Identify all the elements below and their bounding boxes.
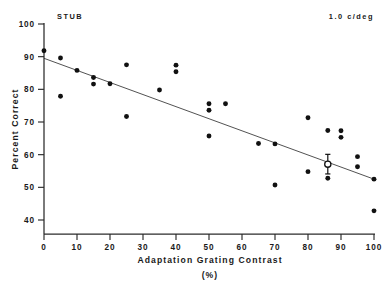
x-tick-label-40: 40 (171, 243, 182, 252)
data-point (339, 128, 344, 133)
data-point (207, 101, 212, 106)
x-tick-label-90: 90 (336, 243, 347, 252)
data-point (355, 154, 360, 159)
data-point (372, 208, 377, 213)
data-point (256, 141, 261, 146)
data-point (207, 134, 212, 139)
data-point (91, 75, 96, 80)
data-point (223, 101, 228, 106)
x-tick-label-30: 30 (138, 243, 149, 252)
data-points (42, 48, 377, 213)
x-axis-units-label: (%) (202, 270, 219, 280)
y-axis-ticks: 405060708090100 (19, 20, 44, 225)
x-tick-label-20: 20 (105, 243, 116, 252)
y-tick-label-60: 60 (24, 151, 35, 160)
x-axis-title: Adaptation Grating Contrast (137, 255, 282, 265)
data-point (273, 183, 278, 188)
y-tick-label-100: 100 (19, 20, 35, 29)
spatial-frequency-annotation: 1.0 c/deg (329, 12, 374, 21)
y-tick-label-80: 80 (24, 85, 35, 94)
data-point (157, 88, 162, 93)
mean-marker-group (325, 154, 331, 174)
y-tick-label-40: 40 (24, 216, 35, 225)
data-point (174, 69, 179, 74)
data-point (124, 114, 129, 119)
y-tick-label-50: 50 (24, 183, 35, 192)
x-tick-label-60: 60 (237, 243, 248, 252)
data-point (306, 169, 311, 174)
data-point (58, 56, 63, 61)
data-point (306, 115, 311, 120)
data-point (42, 48, 47, 53)
data-point (325, 128, 330, 133)
x-tick-label-0: 0 (41, 243, 46, 252)
axes-frame (44, 23, 375, 234)
data-point (124, 62, 129, 67)
x-axis-ticks: 0102030405060708090100 (41, 234, 382, 252)
x-tick-label-70: 70 (270, 243, 281, 252)
y-axis-title: Percent Correct (10, 89, 20, 170)
data-point (207, 108, 212, 113)
data-point (355, 164, 360, 169)
data-point (339, 135, 344, 140)
data-point (174, 63, 179, 68)
data-point (108, 81, 113, 86)
data-point (75, 68, 80, 73)
data-point (325, 176, 330, 181)
x-tick-label-80: 80 (303, 243, 314, 252)
mean-data-point (325, 161, 331, 167)
subject-annotation: STUB (57, 12, 83, 21)
plot-annotations: STUB 1.0 c/deg (57, 12, 374, 21)
y-tick-label-70: 70 (24, 118, 35, 127)
data-point (58, 94, 63, 99)
data-point (273, 141, 278, 146)
scatter-plot: STUB 1.0 c/deg 405060708090100 010203040… (0, 0, 389, 285)
x-tick-label-100: 100 (366, 243, 382, 252)
y-tick-label-90: 90 (24, 53, 35, 62)
figure-container: STUB 1.0 c/deg 405060708090100 010203040… (0, 0, 389, 285)
data-point (372, 177, 377, 182)
x-tick-label-50: 50 (204, 243, 215, 252)
data-point (91, 82, 96, 87)
x-tick-label-10: 10 (72, 243, 83, 252)
